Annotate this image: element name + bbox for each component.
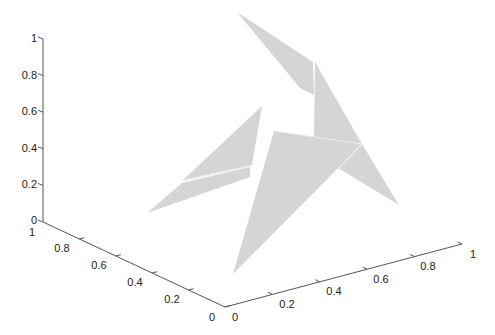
x-tick-label: 0.4 bbox=[326, 285, 341, 297]
x-tick-label: 0 bbox=[232, 311, 238, 323]
y-tick-label: 1 bbox=[29, 226, 35, 238]
y-tick-label: 0.2 bbox=[164, 293, 179, 305]
x-tick-label: 0.8 bbox=[420, 260, 435, 272]
y-tick-label: 0.8 bbox=[54, 242, 69, 254]
y-tick-label: 0.6 bbox=[91, 259, 106, 271]
y-tick-label: 0.4 bbox=[127, 276, 142, 288]
x-tick-label: 0.6 bbox=[373, 273, 388, 285]
z-tick-label: 0.8 bbox=[22, 69, 37, 81]
patches bbox=[147, 12, 399, 274]
patch-top-sliver bbox=[237, 12, 314, 95]
y-tick-labels: 1 0.8 0.6 0.4 0.2 0 bbox=[29, 226, 215, 323]
z-tick-label: 0.4 bbox=[22, 142, 37, 154]
z-tick-label: 0.2 bbox=[22, 178, 37, 190]
y-tick-label: 0 bbox=[209, 311, 215, 323]
x-axis bbox=[225, 244, 462, 307]
x-tick-labels: 0 0.2 0.4 0.6 0.8 1 bbox=[232, 248, 476, 323]
z-tick-label: 1 bbox=[31, 32, 37, 44]
patch-right-wing bbox=[314, 62, 399, 205]
x-tick-label: 0.2 bbox=[279, 298, 294, 310]
x-tick-label: 1 bbox=[470, 248, 476, 260]
patch-left-wing-upper bbox=[183, 106, 262, 180]
y-axis bbox=[43, 222, 225, 307]
z-tick-label: 0.6 bbox=[22, 105, 37, 117]
z-tick-label: 0 bbox=[31, 214, 37, 226]
surface-plot: 1 0.8 0.6 0.4 0.2 0 1 0.8 0.6 0.4 0.2 0 … bbox=[0, 0, 495, 335]
z-tick-labels: 1 0.8 0.6 0.4 0.2 0 bbox=[22, 32, 37, 226]
